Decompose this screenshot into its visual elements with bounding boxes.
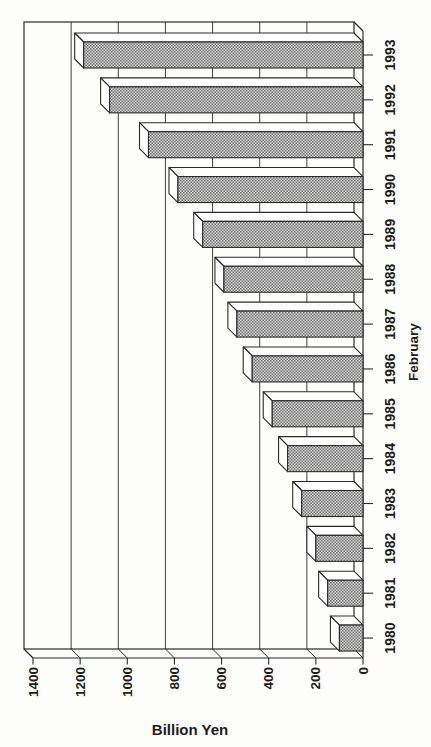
- bar-1990: [169, 168, 363, 203]
- value-tick-depth-connector: [118, 649, 127, 658]
- value-axis-ticks: 0200400600800100012001400: [24, 649, 371, 697]
- scanned-chart-page: 0200400600800100012001400 19801981198219…: [0, 0, 431, 747]
- bar-front-face: [302, 491, 363, 517]
- value-tick-label: 1000: [120, 667, 135, 697]
- bar-1984: [279, 437, 363, 472]
- bar-1982: [307, 526, 363, 561]
- bar-top-face: [215, 257, 363, 266]
- bar-top-face: [293, 482, 363, 491]
- category-tick-label: 1991: [382, 129, 398, 160]
- bar-front-face: [288, 446, 363, 472]
- value-tick-depth-connector: [213, 649, 222, 658]
- value-axis-title: Billion Yen: [152, 721, 228, 738]
- value-tick-label: 200: [308, 667, 323, 690]
- bar-front-face: [178, 177, 363, 203]
- bar-front-face: [252, 356, 363, 382]
- bar-front-face: [84, 42, 363, 68]
- bar-1993: [75, 33, 363, 68]
- category-tick-label: 1981: [382, 577, 398, 608]
- bar-top-face: [169, 168, 363, 177]
- value-tick-depth-connector: [165, 649, 174, 658]
- bar-top-face: [228, 302, 363, 311]
- bar-1981: [319, 571, 363, 606]
- value-tick-label: 1200: [73, 667, 88, 697]
- axis-frame-3d-edges: [24, 22, 363, 658]
- value-tick-depth-connector: [24, 649, 33, 658]
- bar-front-face: [110, 87, 363, 113]
- category-tick-label: 1984: [382, 443, 398, 474]
- bar-1987: [228, 302, 363, 337]
- category-tick-label: 1988: [382, 263, 398, 294]
- bar-top-face: [140, 123, 364, 132]
- bar-1980: [330, 616, 363, 651]
- category-tick-label: 1985: [382, 398, 398, 429]
- value-tick-label: 800: [167, 667, 182, 690]
- category-tick-label: 1989: [382, 219, 398, 250]
- value-tick-label: 600: [214, 667, 229, 690]
- value-tick-depth-connector: [307, 649, 316, 658]
- value-tick-label: 400: [261, 667, 276, 690]
- bar-1989: [194, 212, 363, 247]
- bar-1986: [243, 347, 363, 382]
- category-tick-label: 1986: [382, 353, 398, 384]
- category-tick-label: 1992: [382, 84, 398, 115]
- bar-front-face: [328, 580, 363, 606]
- bar-1988: [215, 257, 363, 292]
- bar-front-face: [339, 625, 363, 651]
- value-tick-depth-connector: [260, 649, 269, 658]
- category-axis-title: February: [406, 323, 421, 381]
- bar-front-face: [224, 266, 363, 292]
- bar-1992: [101, 78, 363, 113]
- bar-front-face: [149, 132, 364, 158]
- bar-front-face: [272, 401, 363, 427]
- bar-1991: [140, 123, 364, 158]
- value-tick-depth-connector: [71, 649, 80, 658]
- 3d-bar-chart: 0200400600800100012001400 19801981198219…: [0, 0, 431, 747]
- bar-top-face: [194, 212, 363, 221]
- value-tick-label: 1400: [26, 667, 41, 697]
- value-tick-label: 0: [356, 667, 371, 675]
- category-tick-label: 1983: [382, 488, 398, 519]
- bar-top-face: [75, 33, 363, 42]
- bar-top-face: [101, 78, 363, 87]
- bar-front-face: [316, 535, 363, 561]
- bar-front-face: [237, 311, 363, 337]
- top-right-depth-edge: [354, 22, 363, 31]
- bar-top-face: [279, 437, 363, 446]
- category-tick-label: 1982: [382, 533, 398, 564]
- bar-1985: [263, 392, 363, 427]
- bar-1983: [293, 482, 363, 517]
- bar-top-face: [263, 392, 363, 401]
- bar-front-face: [203, 221, 363, 247]
- category-axis-ticks: 1980198119821983198419851986198719881989…: [363, 39, 398, 653]
- category-tick-label: 1990: [382, 174, 398, 205]
- category-tick-label: 1993: [382, 39, 398, 70]
- category-tick-label: 1980: [382, 622, 398, 653]
- bar-top-face: [243, 347, 363, 356]
- category-tick-label: 1987: [382, 308, 398, 339]
